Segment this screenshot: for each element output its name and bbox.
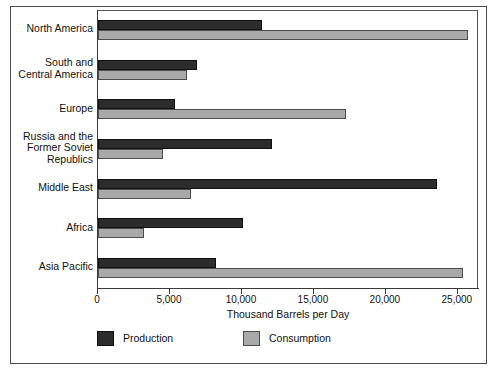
legend-label-consumption: Consumption (269, 332, 331, 344)
x-tick-label: 25,000 (427, 294, 487, 305)
bar-consumption (98, 268, 463, 278)
chart-row: Middle East (0, 169, 497, 209)
chart-row: North America (0, 10, 497, 50)
bar-consumption (98, 30, 468, 40)
chart-row: Asia Pacific (0, 248, 497, 288)
x-tick-label: 0 (67, 294, 127, 305)
x-tick-label: 15,000 (283, 294, 343, 305)
x-tick-label: 10,000 (211, 294, 271, 305)
legend-swatch-production-icon (97, 331, 114, 346)
bar-consumption (98, 228, 144, 238)
chart-row: South and Central America (0, 50, 497, 90)
bar-production (98, 99, 175, 109)
category-label: Middle East (0, 182, 93, 194)
chart-legend: Production Consumption (97, 330, 479, 350)
category-label: Europe (0, 103, 93, 115)
bar-production (98, 218, 243, 228)
bar-chart-figure: North AmericaSouth and Central AmericaEu… (0, 0, 497, 371)
bar-consumption (98, 189, 191, 199)
bar-production (98, 258, 216, 268)
category-label: South and Central America (0, 57, 93, 80)
bar-consumption (98, 109, 346, 119)
x-tick-label: 5,000 (139, 294, 199, 305)
category-label: Asia Pacific (0, 261, 93, 273)
legend-swatch-consumption-icon (243, 331, 260, 346)
category-label: Russia and the Former Soviet Republics (0, 131, 93, 166)
x-axis-title: Thousand Barrels per Day (97, 308, 479, 320)
legend-item-production: Production (97, 330, 173, 346)
x-tick-label: 20,000 (355, 294, 415, 305)
legend-label-production: Production (123, 332, 173, 344)
chart-row: Russia and the Former Soviet Republics (0, 129, 497, 169)
bar-consumption (98, 70, 187, 80)
bar-production (98, 20, 262, 30)
bar-consumption (98, 149, 163, 159)
legend-item-consumption: Consumption (243, 330, 331, 346)
chart-row: Europe (0, 89, 497, 129)
bar-production (98, 179, 437, 189)
chart-row: Africa (0, 209, 497, 249)
category-label: Africa (0, 222, 93, 234)
category-label: North America (0, 23, 93, 35)
bar-production (98, 139, 272, 149)
bar-production (98, 60, 197, 70)
